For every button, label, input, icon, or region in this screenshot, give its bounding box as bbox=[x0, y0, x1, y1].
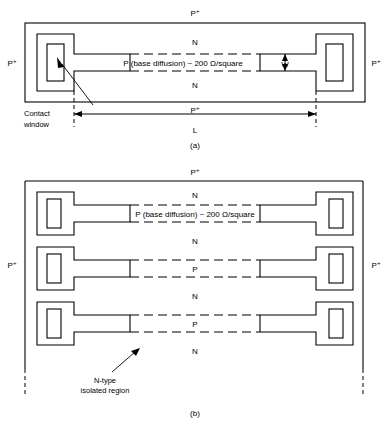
panel-b-region-5-label: P bbox=[192, 320, 197, 329]
panel-a: P+ P+ P+ P+ N N P (base diffusion) ~ 200… bbox=[8, 8, 381, 150]
panel-b-left-contact-window-2 bbox=[47, 254, 61, 283]
panel-b-right-contact-window-2 bbox=[329, 254, 343, 283]
panel-a-length-arrow-left bbox=[74, 111, 82, 117]
panel-a-width-label: W bbox=[281, 60, 289, 69]
panel-a-caption: (a) bbox=[190, 141, 200, 150]
panel-b-top-pplus-label: P+ bbox=[191, 167, 200, 177]
panel-a-contact-leader-arrowhead bbox=[57, 57, 64, 68]
panel-b-strip-text: P (base diffusion) ~ 200 Ω/square bbox=[135, 210, 255, 219]
panel-b-isolated-label-line1: N-type bbox=[94, 376, 116, 385]
panel-b-caption: (b) bbox=[190, 409, 200, 418]
panel-a-contact-leader-line bbox=[62, 64, 93, 105]
panel-a-strip-text: P (base diffusion) ~ 200 Ω/square bbox=[123, 59, 243, 68]
panel-a-contact-window-label-line1: Contact bbox=[24, 109, 51, 118]
resistor-layout-figure: P+ P+ P+ P+ N N P (base diffusion) ~ 200… bbox=[0, 0, 388, 425]
panel-b-left-pad-1 bbox=[37, 192, 130, 235]
panel-b-right-contact-window-1 bbox=[329, 199, 343, 228]
panel-a-length-arrow-right bbox=[308, 111, 316, 117]
panel-b-right-pplus-label: P+ bbox=[372, 260, 381, 270]
panel-b-isolated-label-line2: isolated region bbox=[81, 386, 130, 395]
panel-a-right-pplus-label: P+ bbox=[372, 58, 381, 68]
panel-a-right-pad bbox=[260, 34, 353, 91]
panel-a-n-upper-label: N bbox=[192, 38, 198, 47]
panel-b-region-4-label: N bbox=[192, 292, 198, 301]
panel-a-right-contact-window bbox=[326, 44, 343, 81]
panel-a-left-pad bbox=[37, 34, 130, 91]
panel-a-n-lower-label: N bbox=[192, 81, 198, 90]
panel-b-left-contact-window-3 bbox=[47, 309, 61, 338]
panel-a-top-pplus-label: P+ bbox=[191, 8, 200, 18]
panel-b-left-contact-window-1 bbox=[47, 199, 61, 228]
panel-b-region-3-label: P bbox=[192, 265, 197, 274]
panel-a-contact-window-label-line2: window bbox=[23, 120, 50, 129]
panel-b-right-pad-1 bbox=[260, 192, 353, 235]
panel-b-isolated-leader-line bbox=[112, 352, 135, 372]
panel-b-region-6-label: N bbox=[192, 347, 198, 356]
panel-b-region-2-label: N bbox=[192, 237, 198, 246]
panel-a-left-contact-window bbox=[47, 44, 64, 81]
panel-a-length-label: L bbox=[193, 126, 198, 135]
panel-b: P+ P+ P+ N P (base diffusion) ~ 200 Ω/sq… bbox=[8, 167, 381, 418]
panel-a-left-pplus-label: P+ bbox=[8, 58, 17, 68]
panel-b-right-contact-window-3 bbox=[329, 309, 343, 338]
figure-canvas: P+ P+ P+ P+ N N P (base diffusion) ~ 200… bbox=[0, 0, 388, 425]
panel-b-region-1-label: N bbox=[192, 191, 198, 200]
panel-b-left-pplus-label: P+ bbox=[8, 260, 17, 270]
